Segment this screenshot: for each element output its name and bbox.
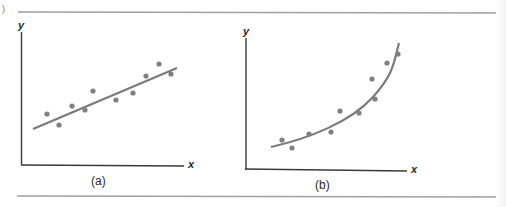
- chart-a: [21, 32, 184, 166]
- data-point: [56, 122, 61, 127]
- data-point: [130, 90, 135, 95]
- data-point: [356, 110, 361, 115]
- data-point: [395, 51, 400, 56]
- figure-canvas: [0, 0, 506, 207]
- data-point: [384, 60, 389, 65]
- data-point: [44, 111, 49, 116]
- data-point: [369, 76, 374, 81]
- chart-b-x-label: x: [411, 163, 417, 175]
- chart-b-title: (b): [315, 178, 330, 192]
- chart-b-fit-curve: [271, 43, 399, 147]
- data-point: [168, 71, 173, 76]
- chart-a-title: (a): [91, 174, 106, 188]
- chart-b: [245, 38, 407, 171]
- data-point: [90, 88, 95, 93]
- data-point: [82, 107, 87, 112]
- data-point: [289, 145, 294, 150]
- page-edge-shadow: [496, 0, 506, 207]
- data-point: [279, 137, 284, 142]
- chart-b-x-axis: [245, 169, 407, 171]
- data-point: [156, 61, 161, 66]
- bottom-rule: [17, 196, 497, 197]
- data-point: [306, 131, 311, 136]
- chart-a-x-axis: [21, 165, 184, 166]
- chart-b-y-label: y: [243, 25, 249, 37]
- chart-a-fit-line: [33, 68, 177, 129]
- chart-b-points: [279, 51, 400, 150]
- data-point: [337, 108, 342, 113]
- data-point: [372, 96, 377, 101]
- top-rule: [18, 12, 497, 13]
- chart-a-points: [44, 61, 173, 127]
- chart-a-y-label: y: [18, 19, 24, 31]
- data-point: [143, 73, 148, 78]
- data-point: [113, 97, 118, 102]
- chart-a-x-label: x: [188, 158, 194, 170]
- data-point: [328, 129, 333, 134]
- corner-mark: ): [2, 4, 5, 14]
- data-point: [69, 103, 74, 108]
